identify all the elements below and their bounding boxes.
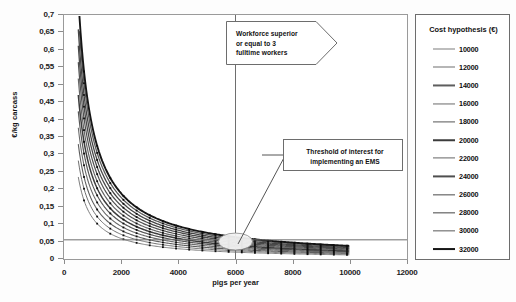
curve-marker [188, 241, 190, 243]
y-axis-tick-label: 0,5 [43, 79, 54, 88]
curve-marker [136, 226, 138, 228]
legend-item[interactable]: 32000 [416, 240, 511, 258]
legend-item-label: 26000 [459, 190, 479, 199]
curve-marker [123, 219, 125, 221]
curve-marker [215, 236, 217, 238]
curve-marker [136, 229, 138, 231]
curve-marker [188, 249, 190, 251]
curve-marker [109, 218, 111, 220]
curve-marker [96, 223, 98, 225]
legend-item-label: 14000 [459, 81, 479, 90]
legend-items: 1000012000140001600018000200002200024000… [416, 40, 511, 258]
legend-line-swatch [433, 208, 455, 218]
legend-line-swatch [433, 99, 455, 109]
curve-marker [83, 176, 85, 178]
curve-marker [123, 207, 125, 209]
x-axis-tick-mark [293, 260, 294, 264]
curve-marker [188, 245, 190, 247]
curve-marker [293, 242, 295, 244]
curve-marker [188, 230, 190, 232]
curve-marker [149, 231, 151, 233]
legend-title: Cost hypothesis (€) [416, 25, 511, 34]
curve-marker [123, 227, 125, 229]
curve-marker [109, 233, 111, 235]
curve-marker [149, 236, 151, 238]
legend-item[interactable]: 10000 [416, 40, 511, 58]
curve-marker [201, 246, 203, 248]
curve-marker [96, 194, 98, 196]
x-axis-title: pigs per year [63, 278, 408, 287]
ems-threshold-callout-line1: Threshold of interest for [290, 147, 400, 157]
curve-marker [96, 187, 98, 189]
legend-item-label: 30000 [459, 226, 479, 235]
curve-marker [175, 235, 177, 237]
curve-marker [83, 188, 85, 190]
curve-marker [162, 246, 164, 248]
chart-legend: Cost hypothesis (€) 10000120001400016000… [415, 14, 510, 260]
legend-item[interactable]: 22000 [416, 149, 511, 167]
curve-marker [136, 219, 138, 221]
legend-item[interactable]: 20000 [416, 131, 511, 149]
curve-marker [83, 153, 85, 155]
legend-item[interactable]: 28000 [416, 204, 511, 222]
legend-item-label: 20000 [459, 136, 479, 145]
legend-item[interactable]: 24000 [416, 167, 511, 185]
curve-marker [96, 159, 98, 161]
x-axis-tick-label: 6000 [227, 268, 244, 277]
x-axis-tick-mark [121, 260, 122, 264]
curve-marker [149, 217, 151, 219]
legend-item[interactable]: 18000 [416, 113, 511, 131]
curve-marker [215, 244, 217, 246]
x-axis-tick-mark [236, 260, 237, 264]
curve-marker [96, 145, 98, 147]
legend-item[interactable]: 12000 [416, 58, 511, 76]
curve-marker [201, 245, 203, 247]
curve-marker [136, 213, 138, 215]
curve-marker [123, 215, 125, 217]
legend-item[interactable]: 30000 [416, 222, 511, 240]
curve-marker [96, 216, 98, 218]
curve-marker [123, 195, 125, 197]
legend-item[interactable]: 26000 [416, 186, 511, 204]
legend-item-label: 12000 [459, 63, 479, 72]
y-axis-tick-label: 0,3 [43, 149, 54, 158]
curve-marker [188, 234, 190, 236]
legend-line-swatch [433, 62, 455, 72]
curve-marker [136, 236, 138, 238]
legend-line-swatch [433, 117, 455, 127]
curve-marker [83, 129, 85, 131]
curve-marker [320, 243, 322, 245]
x-axis-tick-label: 0 [62, 268, 66, 277]
y-axis-tick-label: 0,1 [43, 219, 54, 228]
y-axis-tick-label: 0,6 [43, 44, 54, 53]
curve-marker [162, 242, 164, 244]
curve-marker [109, 197, 111, 199]
workforce-callout-line1: Workforce superior [236, 29, 326, 39]
curve-marker [109, 207, 111, 209]
x-axis: 020004000600080001000012000 [63, 260, 408, 278]
curve-marker [175, 248, 177, 250]
legend-item-label: 28000 [459, 208, 479, 217]
workforce-callout: Workforce superior or equal to 3 fulltim… [226, 21, 338, 65]
curve-marker [96, 166, 98, 168]
curve-marker [346, 245, 348, 247]
curve-marker [149, 220, 151, 222]
workforce-callout-text: Workforce superior or equal to 3 fulltim… [236, 29, 326, 58]
curve-marker [188, 247, 190, 249]
curve-marker [215, 233, 217, 235]
y-axis-tick-label: 0,15 [39, 201, 54, 210]
legend-item[interactable]: 14000 [416, 76, 511, 94]
curve-marker [175, 227, 177, 229]
y-axis-tick-label: 0,2 [43, 184, 54, 193]
curve-marker [149, 225, 151, 227]
curve-marker [201, 238, 203, 240]
cost-curve [78, 95, 349, 251]
curve-marker [136, 206, 138, 208]
y-axis-tick-label: 0,45 [39, 97, 54, 106]
legend-item[interactable]: 16000 [416, 95, 511, 113]
curve-marker [215, 250, 217, 252]
curve-marker [109, 177, 111, 179]
curve-marker [123, 223, 125, 225]
curve-marker [215, 241, 217, 243]
curve-marker [162, 237, 164, 239]
